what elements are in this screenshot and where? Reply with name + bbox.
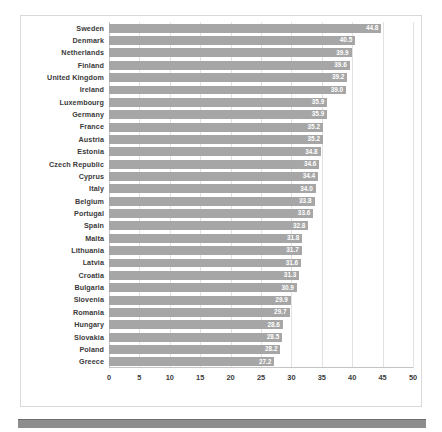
category-label: Netherlands bbox=[21, 49, 109, 56]
bar-row: United Kingdom39.2 bbox=[21, 71, 421, 83]
bar-value-label: 39.0 bbox=[331, 87, 346, 93]
bar-track: 29.9 bbox=[109, 294, 421, 306]
bar-track: 39.0 bbox=[109, 84, 421, 96]
bar-row: Spain32.8 bbox=[21, 220, 421, 232]
bar-track: 31.8 bbox=[109, 232, 421, 244]
bar-track: 31.3 bbox=[109, 269, 421, 281]
bar-track: 28.6 bbox=[109, 319, 421, 331]
bar-track: 32.8 bbox=[109, 220, 421, 232]
x-tick-label: 35 bbox=[318, 374, 326, 381]
bar-track: 31.7 bbox=[109, 244, 421, 256]
category-label: Germany bbox=[21, 111, 109, 118]
bar-track: 39.2 bbox=[109, 71, 421, 83]
bar: 34.6 bbox=[109, 160, 319, 169]
bar-value-label: 28.2 bbox=[265, 346, 280, 352]
bar-value-label: 39.9 bbox=[336, 50, 351, 56]
bar-row: Lithuania31.7 bbox=[21, 244, 421, 256]
bar-value-label: 29.7 bbox=[274, 309, 289, 315]
bar-track: 39.6 bbox=[109, 59, 421, 71]
category-label: Latvia bbox=[21, 259, 109, 266]
x-axis-tick-labels: 05101520253035404550 bbox=[109, 374, 413, 388]
category-label: Poland bbox=[21, 346, 109, 353]
bar: 28.6 bbox=[109, 320, 283, 329]
category-label: Slovenia bbox=[21, 296, 109, 303]
x-axis-line bbox=[109, 367, 413, 368]
bar-row: Hungary28.6 bbox=[21, 319, 421, 331]
bar: 34.0 bbox=[109, 184, 316, 193]
category-label: Portugal bbox=[21, 210, 109, 217]
bar: 35.9 bbox=[109, 98, 327, 107]
bar-value-label: 31.6 bbox=[286, 260, 301, 266]
x-tick-label: 20 bbox=[226, 374, 234, 381]
x-tick-label: 15 bbox=[196, 374, 204, 381]
category-label: Cyprus bbox=[21, 173, 109, 180]
bar-row: France35.2 bbox=[21, 121, 421, 133]
category-label: Romania bbox=[21, 309, 109, 316]
bar: 29.7 bbox=[109, 308, 290, 317]
bar-value-label: 39.6 bbox=[334, 62, 349, 68]
category-label: Estonia bbox=[21, 148, 109, 155]
category-label: Ireland bbox=[21, 86, 109, 93]
bar-row: Slovenia29.9 bbox=[21, 294, 421, 306]
bar-track: 33.6 bbox=[109, 207, 421, 219]
x-tick-label: 30 bbox=[287, 374, 295, 381]
bar-value-label: 34.4 bbox=[303, 173, 318, 179]
bar-row: Bulgaria30.9 bbox=[21, 282, 421, 294]
x-tick-label: 45 bbox=[378, 374, 386, 381]
bar-row: Malta31.8 bbox=[21, 232, 421, 244]
bar-track: 44.8 bbox=[109, 22, 421, 34]
x-tick-label: 10 bbox=[166, 374, 174, 381]
category-label: Greece bbox=[21, 358, 109, 365]
bar: 35.2 bbox=[109, 123, 323, 132]
bar-value-label: 39.2 bbox=[332, 74, 347, 80]
bar-track: 35.9 bbox=[109, 109, 421, 121]
bar-value-label: 30.9 bbox=[281, 285, 296, 291]
bar-track: 35.2 bbox=[109, 121, 421, 133]
x-tick-label: 40 bbox=[348, 374, 356, 381]
bar: 32.8 bbox=[109, 221, 308, 230]
category-label: Czech Republic bbox=[21, 161, 109, 168]
bar: 33.6 bbox=[109, 209, 313, 218]
bar: 27.2 bbox=[109, 357, 274, 366]
category-label: Austria bbox=[21, 136, 109, 143]
x-tick-label: 25 bbox=[257, 374, 265, 381]
bar: 31.7 bbox=[109, 246, 302, 255]
bar: 28.5 bbox=[109, 333, 282, 342]
bar-value-label: 35.9 bbox=[312, 111, 327, 117]
bar: 40.5 bbox=[109, 36, 355, 45]
bar: 34.8 bbox=[109, 147, 321, 156]
category-label: France bbox=[21, 123, 109, 130]
bar-value-label: 35.9 bbox=[312, 99, 327, 105]
bar-track: 29.7 bbox=[109, 306, 421, 318]
bar: 44.8 bbox=[109, 24, 381, 33]
bar-track: 28.2 bbox=[109, 343, 421, 355]
bar-row: Cyprus34.4 bbox=[21, 170, 421, 182]
bar-chart-figure: Sweden44.8Denmark40.5Netherlands39.9Finl… bbox=[20, 15, 422, 407]
bar-value-label: 27.2 bbox=[259, 359, 274, 365]
bar-value-label: 35.2 bbox=[308, 136, 323, 142]
bar: 33.8 bbox=[109, 197, 315, 206]
bar-value-label: 28.6 bbox=[267, 322, 282, 328]
bar-track: 34.4 bbox=[109, 170, 421, 182]
bar-row: Croatia31.3 bbox=[21, 269, 421, 281]
bar-row: Germany35.9 bbox=[21, 109, 421, 121]
category-label: Hungary bbox=[21, 321, 109, 328]
bar: 35.2 bbox=[109, 135, 323, 144]
bar: 39.0 bbox=[109, 86, 346, 95]
x-tick-label: 50 bbox=[409, 374, 417, 381]
bar-track: 34.8 bbox=[109, 146, 421, 158]
bar-track: 35.9 bbox=[109, 96, 421, 108]
bar: 39.2 bbox=[109, 73, 347, 82]
bar-value-label: 35.2 bbox=[308, 124, 323, 130]
category-label: Italy bbox=[21, 185, 109, 192]
bar-value-label: 31.3 bbox=[284, 272, 299, 278]
bar-value-label: 34.0 bbox=[300, 186, 315, 192]
bar-row: Ireland39.0 bbox=[21, 84, 421, 96]
bar-row: Finland39.6 bbox=[21, 59, 421, 71]
category-label: Luxembourg bbox=[21, 99, 109, 106]
bar: 28.2 bbox=[109, 345, 280, 354]
category-label: Denmark bbox=[21, 37, 109, 44]
category-label: Spain bbox=[21, 222, 109, 229]
bar-value-label: 34.8 bbox=[305, 149, 320, 155]
category-label: Bulgaria bbox=[21, 284, 109, 291]
